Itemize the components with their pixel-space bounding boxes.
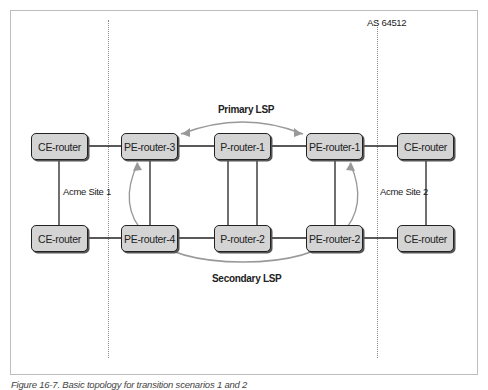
- ce-router-left-top: CE-router: [31, 133, 88, 160]
- p-router-2: P-router-2: [214, 225, 271, 252]
- ce-router-right-bottom: CE-router: [397, 225, 454, 252]
- ce-router-left-bottom: CE-router: [31, 225, 88, 252]
- pe-router-2: PE-router-2: [306, 225, 363, 252]
- acme-site-2-label: Acme Site 2: [380, 186, 428, 197]
- as-number-label: AS 64512: [367, 17, 406, 28]
- pe-router-4: PE-router-4: [121, 225, 178, 252]
- pe-router-1: PE-router-1: [306, 133, 363, 160]
- ce-router-right-top: CE-router: [397, 133, 454, 160]
- p-router-1: P-router-1: [214, 133, 271, 160]
- acme-site-1-label: Acme Site 1: [63, 186, 111, 197]
- pe-router-3: PE-router-3: [121, 133, 178, 160]
- primary-lsp-label: Primary LSP: [218, 104, 274, 115]
- secondary-lsp-label: Secondary LSP: [212, 273, 281, 284]
- figure-caption: Figure 16-7. Basic topology for transiti…: [11, 379, 247, 390]
